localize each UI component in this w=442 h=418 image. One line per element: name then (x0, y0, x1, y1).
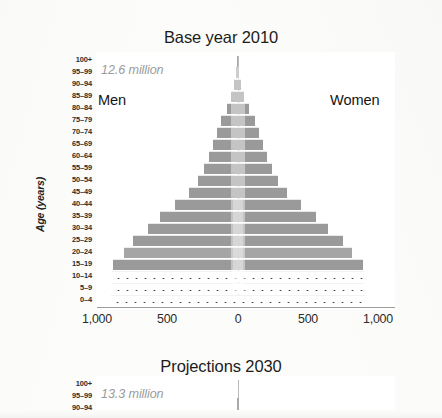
age-tick: 95–99 (46, 392, 92, 400)
x-tick-label: 1,000 (348, 312, 408, 326)
age-tick: 0–4 (46, 296, 92, 304)
age-tick: 75–79 (46, 116, 92, 124)
age-tick: 10–14 (46, 272, 92, 280)
bar-row (237, 56, 238, 67)
age-tick: 90–94 (46, 404, 92, 412)
age-tick: 95–99 (46, 68, 92, 76)
age-tick: 35–39 (46, 212, 92, 220)
total-population-annotation: 12.6 million (101, 63, 164, 77)
bar-row (111, 295, 365, 306)
age-tick: 70–74 (46, 128, 92, 136)
bar-row (237, 398, 239, 418)
x-tick-label: 500 (278, 312, 338, 326)
women-series-label: Women (330, 92, 380, 108)
age-tick: 100+ (46, 56, 92, 64)
center-band-highlight (233, 200, 243, 295)
chart-projections-2030: Projections 2030 100+ 95–99 90–94 13.3 m… (0, 340, 442, 418)
age-tick: 30–34 (46, 224, 92, 232)
chart-title: Projections 2030 (0, 357, 442, 376)
y-axis-label: Age (years) (34, 177, 46, 232)
chart-base-year-2010: Base year 2010 Age (years) 100+ 95–99 90… (0, 0, 442, 340)
figure-page: Base year 2010 Age (years) 100+ 95–99 90… (0, 0, 442, 418)
age-tick: 65–69 (46, 140, 92, 148)
age-tick: 85–89 (46, 92, 92, 100)
age-tick: 80–84 (46, 104, 92, 112)
x-tick-label: 500 (137, 312, 197, 326)
age-tick: 15–19 (46, 260, 92, 268)
age-tick: 60–64 (46, 152, 92, 160)
age-tick: 25–29 (46, 236, 92, 244)
age-tick: 20–24 (46, 248, 92, 256)
total-population-annotation: 13.3 million (101, 387, 164, 401)
men-series-label: Men (98, 92, 126, 108)
x-tick-label: 1,000 (67, 312, 127, 326)
age-tick: 5–9 (46, 284, 92, 292)
x-axis-line (97, 307, 395, 308)
age-tick: 90–94 (46, 80, 92, 88)
age-tick: 50–54 (46, 176, 92, 184)
chart-title: Base year 2010 (0, 28, 442, 47)
x-tick-label: 0 (208, 312, 268, 326)
age-tick: 45–49 (46, 188, 92, 196)
age-tick: 40–44 (46, 200, 92, 208)
age-tick: 100+ (46, 380, 92, 388)
age-tick: 55–59 (46, 164, 92, 172)
